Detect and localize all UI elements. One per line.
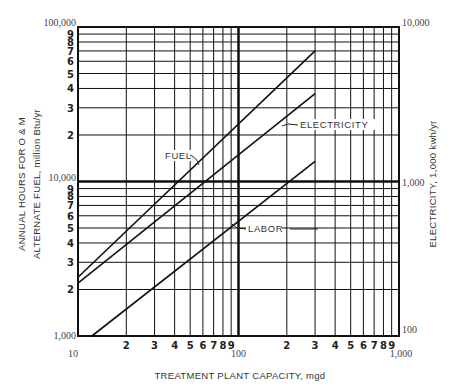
x-tick-label: 4 [332,340,339,351]
y-tick-label: 9 [67,184,74,195]
y-tick-label: 4 [67,83,74,94]
y-right-decade-label: 100 [402,324,417,335]
x-tick-label: 8 [380,340,387,351]
series-line-labor [92,161,315,336]
x-tick-label: 6 [360,340,367,351]
y-right-axis-title: ELECTRICITY, 1,000 kwh/yr [427,120,438,247]
x-tick-label: 4 [171,340,178,351]
x-tick-label: 3 [151,340,158,351]
series-label-fuel: FUEL [165,150,192,161]
y-tick-label: 2 [67,284,74,295]
x-decade-label: 100 [231,348,246,359]
y-tick-label: 6 [67,211,74,222]
x-decade-label: 1,000 [390,348,413,359]
x-tick-label: 7 [210,340,217,351]
series-lines [78,51,315,336]
y-tick-label: 3 [67,257,74,268]
series-label-electricity: ELECTRICITY [300,119,368,130]
y-tick-label: 4 [67,238,74,249]
series-label-labor: LABOR [248,223,283,234]
x-tick-label: 7 [371,340,378,351]
x-tick-label: 8 [219,340,226,351]
y-left-axis-title-1: ANNUAL HOURS FOR O & M [16,117,27,251]
y-left-decade-label: 10,000 [49,172,77,183]
log-log-chart: 2233445566778899101001,00022334455667788… [0,0,452,389]
x-decade-label: 10 [68,348,78,359]
x-tick-label: 2 [123,340,130,351]
x-axis-title: TREATMENT PLANT CAPACITY, mgd [155,370,326,381]
y-right-decade-label: 1,000 [402,177,425,188]
y-tick-label: 6 [67,56,74,67]
axis-labels: 2233445566778899101001,00022334455667788… [16,17,438,381]
y-tick-label: 2 [67,130,74,141]
leader-line [282,124,298,126]
y-tick-label: 5 [67,69,74,80]
x-tick-label: 6 [199,340,206,351]
y-tick-label: 5 [67,223,74,234]
y-right-decade-label: 10,000 [402,17,430,28]
y-left-decade-label: 100,000 [44,17,77,28]
x-tick-label: 5 [347,340,354,351]
x-tick-label: 3 [312,340,319,351]
x-tick-label: 2 [283,340,290,351]
y-tick-label: 9 [67,29,74,40]
grid [78,27,399,336]
y-left-decade-label: 1,000 [54,330,77,341]
y-left-axis-title-2: ALTERNATE FUEL, million Btu/yr [31,109,42,259]
y-tick-label: 3 [67,103,74,114]
x-tick-label: 5 [187,340,194,351]
